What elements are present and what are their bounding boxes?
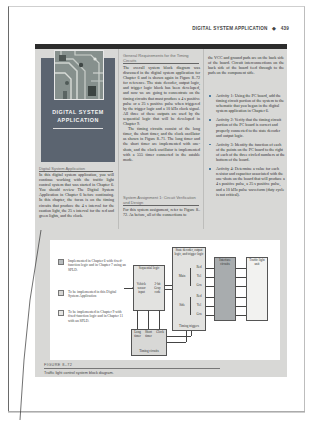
arrow-up-icon <box>158 310 160 311</box>
interface-circuits-title: Interface circuits <box>215 258 235 267</box>
gray-code-wire <box>165 289 172 290</box>
figure-caption: Traffic light control system block diagr… <box>44 371 114 375</box>
arrow-right-icon <box>132 287 133 289</box>
timing-wire <box>137 311 138 329</box>
output-grn-side: Grn <box>194 313 204 317</box>
timing-wire <box>159 311 160 329</box>
trigger-wire <box>191 331 192 336</box>
col1-body: In this digital system application, you … <box>39 172 114 218</box>
state-decoder-block: State decoder, output logic, and trigger… <box>172 247 206 331</box>
caption-rule <box>44 368 220 369</box>
signal-wire <box>206 306 214 307</box>
page-number: 439 <box>281 26 289 31</box>
interface-circuits-block: Interface circuits <box>214 257 236 321</box>
col2-heading-2: System Assignment 1: Circuit Verificatio… <box>123 195 201 205</box>
diamond-bullet-icon: ◆ <box>272 26 276 31</box>
square-bullet-icon <box>209 144 211 146</box>
col2-body-2: For this system assignment, refer to Fig… <box>123 207 200 217</box>
signal-wire <box>206 297 214 298</box>
square-bullet-icon <box>209 95 211 97</box>
col2-heading: General Requirements for the Timing Circ… <box>123 53 201 63</box>
legend-swatch <box>58 259 64 265</box>
running-head-title: DIGITAL SYSTEM APPLICATION <box>192 26 267 31</box>
clock-label: Clock <box>154 331 166 335</box>
activity-item: Activity 2: Verify that the timing circu… <box>208 117 285 137</box>
running-head: DIGITAL SYSTEM APPLICATION ◆ 439 <box>192 26 289 31</box>
figure-label: FIGURE 8–72 <box>44 363 72 367</box>
gray-code-wire <box>165 285 172 286</box>
output-yel-main: Yel <box>194 275 204 279</box>
timing-triggers-label: Timing triggers <box>173 325 205 329</box>
activity-item: Activity 1: Using the PC board, add the … <box>208 93 285 113</box>
square-bullet-icon <box>209 168 211 170</box>
arrow-up-icon <box>147 310 149 311</box>
trigger-wire <box>186 331 187 342</box>
signal-wire <box>206 277 214 278</box>
arrow-up-icon <box>136 310 138 311</box>
signal-wire <box>206 268 214 269</box>
legend-swatch <box>58 310 64 316</box>
legend-text: To be implemented in this Digital System… <box>68 290 126 299</box>
signal-wire <box>206 286 214 287</box>
hero-title-line1: DIGITAL SYSTEM <box>41 108 115 116</box>
output-grn-main: Grn <box>194 284 204 288</box>
trigger-wire <box>167 342 186 343</box>
side-bracket <box>190 297 191 315</box>
traffic-light-unit-block: Traffic light unit <box>246 257 268 321</box>
legend-item: To be implemented in Chapter 9 with fixe… <box>58 310 126 323</box>
signal-wire <box>236 277 246 278</box>
activity-text: Determine a value for each resistor and … <box>216 166 285 196</box>
signal-wire <box>236 297 246 298</box>
activity-item: Activity 3: Identify the function of eac… <box>208 142 285 162</box>
col3-body: the VCC and ground pads are on the back … <box>208 55 284 75</box>
hero-title: DIGITAL SYSTEM APPLICATION <box>41 108 115 124</box>
col2-body: The overall system block diagram was dis… <box>123 65 200 162</box>
signal-wire <box>206 315 214 316</box>
activity-item: Activity 4: Determine a value for each r… <box>208 166 285 197</box>
hero-rule <box>53 128 103 129</box>
output-red-side: Red <box>194 295 204 299</box>
col2-heading-2-rule <box>123 205 199 206</box>
col3-paragraph: the VCC and ground pads are on the back … <box>208 55 284 75</box>
signal-wire <box>236 268 246 269</box>
trigger-wire <box>167 336 191 337</box>
signal-wire <box>236 315 246 316</box>
col1-paragraph: In this digital system application, you … <box>39 172 114 218</box>
legend-text: Implemented in Chapter 6 with fixed-func… <box>68 259 126 272</box>
legend-item: Implemented in Chapter 6 with fixed-func… <box>58 259 126 272</box>
main-label: Main <box>177 275 187 279</box>
col2-paragraph-3: For this system assignment, refer to Fig… <box>123 207 200 217</box>
col2-heading-rule <box>123 63 199 64</box>
col2-paragraph-1: The overall system block diagram was dis… <box>123 65 200 126</box>
output-yel-side: Yel <box>194 304 204 308</box>
col2-paragraph-2: The timing circuits consist of the long … <box>123 126 200 162</box>
circuit-board-image <box>54 50 104 100</box>
legend-swatch <box>58 290 64 296</box>
timing-circuits-title: Timing circuits <box>131 350 167 354</box>
signal-wire <box>236 286 246 287</box>
column-divider <box>203 49 204 229</box>
state-decoder-title: State decoder, output logic, and trigger… <box>173 248 205 257</box>
traffic-light-unit-title: Traffic light unit <box>247 258 267 267</box>
main-bracket <box>190 268 191 286</box>
vehicle-sensor-label: Vehicle sensor input <box>134 283 149 294</box>
legend-item: To be implemented in this Digital System… <box>58 290 126 299</box>
long-timer-label: Long timer <box>132 331 143 339</box>
signal-wire <box>236 306 246 307</box>
short-timer-label: Short timer <box>143 331 154 339</box>
column-divider <box>118 49 119 229</box>
hero-title-line2: APPLICATION <box>41 116 115 124</box>
legend-text: To be implemented in Chapter 9 with fixe… <box>68 310 126 323</box>
timing-wire <box>148 311 149 329</box>
sequential-logic-title: Sequential logic <box>134 266 164 271</box>
circuit-board-icon <box>55 51 104 100</box>
gray-code-label: 2-bit Gray code <box>151 283 164 294</box>
activity-list: Activity 1: Using the PC board, add the … <box>208 93 285 201</box>
page-bottom-edge <box>8 411 305 413</box>
side-label: Side <box>177 304 187 308</box>
output-red-main: Red <box>194 266 204 270</box>
square-bullet-icon <box>209 119 211 121</box>
